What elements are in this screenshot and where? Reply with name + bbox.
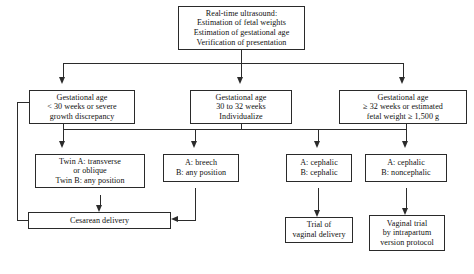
node-pres-ceph-non-line-2: B: noncephalic (381, 168, 430, 178)
node-ga-under30-line-3: growth discrepancy (50, 112, 115, 122)
connector-breech-drop (195, 188, 196, 220)
node-cesarean-delivery[interactable]: Cesarean delivery (28, 212, 171, 229)
node-pres-ceph-non-line-1: A: cephalic (387, 158, 425, 168)
node-root-line-4: Verification of presentation (197, 38, 287, 48)
node-ga-32plus-line-2: ≥ 32 weeks or estimated (363, 102, 443, 112)
connector-row2-mid-drop (241, 63, 242, 77)
node-vaginal-version-line-3: version protocol (380, 238, 434, 248)
node-gestational-age-under-30[interactable]: Gestational age < 30 weeks or severe gro… (29, 90, 135, 124)
arrowhead-to-pres-breech (191, 141, 197, 148)
connector-root-stem (241, 50, 242, 63)
node-presentation-cephalic-cephalic[interactable]: A: cephalic B: cephalic (286, 154, 352, 182)
node-gestational-age-30-to-32[interactable]: Gestational age 30 to 32 weeks Individua… (190, 90, 292, 124)
node-root-line-3: Estimation of gestational age (194, 28, 290, 38)
node-root-line-1: Real-time ultrasound: (206, 9, 277, 19)
arrowhead-to-trial-vaginal (314, 210, 320, 217)
arrowhead-to-pres-ceph-ceph (314, 141, 320, 148)
node-ga-30to32-line-2: 30 to 32 weeks (216, 102, 265, 112)
node-ga-30to32-line-3: Individualize (219, 112, 262, 122)
node-cesarean-line-1: Cesarean delivery (70, 216, 129, 226)
node-presentation-transverse-oblique[interactable]: Twin A: transverse or oblique Twin B: an… (35, 154, 145, 188)
arrowhead-to-pres-ceph-noncephalic (402, 141, 408, 148)
node-gestational-age-32-plus[interactable]: Gestational age ≥ 32 weeks or estimated … (339, 90, 467, 124)
connector-ga-under30-stem (63, 124, 64, 141)
node-root-ultrasound[interactable]: Real-time ultrasound: Estimation of feta… (178, 6, 305, 50)
node-presentation-breech[interactable]: A: breech B: any position (163, 154, 239, 182)
arrowhead-to-ga-under30 (59, 77, 65, 84)
node-ga-32plus-line-1: Gestational age (378, 93, 429, 103)
node-pres-breech-line-2: B: any position (176, 168, 226, 178)
node-pres-ceph-ceph-line-1: A: cephalic (300, 158, 338, 168)
node-ga-30to32-line-1: Gestational age (216, 93, 267, 103)
node-trial-of-vaginal-delivery[interactable]: Trial of vaginal delivery (285, 217, 353, 243)
node-pres-ceph-ceph-line-2: B: cephalic (300, 168, 337, 178)
connector-row3-bus (63, 129, 406, 130)
node-trial-vaginal-line-1: Trial of (307, 220, 332, 230)
node-root-line-2: Estimation of fetal weights (197, 18, 286, 28)
node-trial-vaginal-line-2: vaginal delivery (292, 230, 345, 240)
connector-cephnon-stem (406, 188, 407, 208)
node-ga-under30-line-1: Gestational age (57, 93, 108, 103)
arrowhead-to-ga-30to32 (237, 77, 243, 84)
node-ga-under30-line-2: < 30 weeks or severe (47, 102, 116, 112)
connector-row3-cephnon-drop (406, 129, 407, 141)
node-pres-transverse-line-2: or oblique (73, 166, 107, 176)
connector-row2-right-drop (403, 63, 404, 77)
node-vaginal-version-line-1: Vaginal trial (387, 219, 427, 229)
connector-bypass-vertical (17, 102, 18, 220)
connector-breech-to-cesarean (178, 220, 196, 221)
connector-bypass-bottom (17, 220, 28, 221)
arrowhead-to-ga-32plus (399, 77, 405, 84)
node-presentation-cephalic-noncephalic[interactable]: A: cephalic B: noncephalic (365, 154, 447, 182)
node-ga-32plus-line-3: fetal weight ≥ 1,500 g (367, 112, 439, 122)
connector-cephceph-stem (318, 188, 319, 210)
connector-row2-left-drop (63, 63, 64, 77)
connector-row3-cephceph-drop (318, 129, 319, 141)
arrowhead-to-vaginal-version (402, 208, 408, 215)
node-pres-breech-line-1: A: breech (185, 158, 217, 168)
connector-row3-breech-drop (195, 129, 196, 141)
arrowhead-to-pres-transverse (59, 141, 65, 148)
node-vaginal-trial-version-protocol[interactable]: Vaginal trial by intrapartum version pro… (369, 215, 445, 251)
flowchart-canvas: Real-time ultrasound: Estimation of feta… (0, 0, 474, 274)
connector-row2-bus (63, 63, 403, 64)
node-pres-transverse-line-3: Twin B: any position (55, 176, 124, 186)
node-pres-transverse-line-1: Twin A: transverse (59, 157, 121, 167)
connector-transverse-stem (100, 195, 101, 205)
node-vaginal-version-line-2: by intrapartum (383, 228, 432, 238)
arrowhead-breech-to-cesarean (171, 216, 178, 222)
arrowhead-transverse-to-cesarean (96, 205, 102, 212)
